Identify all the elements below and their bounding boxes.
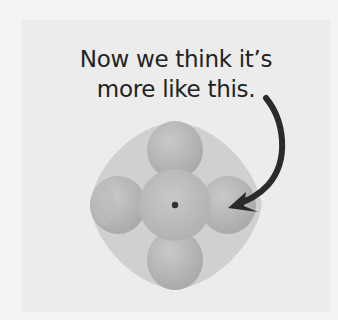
- lobe-left: [90, 176, 146, 234]
- atom-diagram: [0, 0, 338, 320]
- nucleus-dot: [172, 202, 178, 208]
